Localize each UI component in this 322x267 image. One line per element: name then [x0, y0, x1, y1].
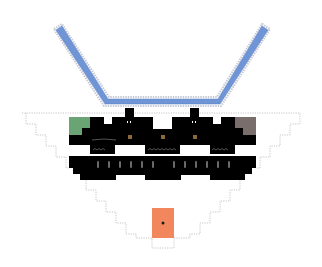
diagram-canvas — [0, 0, 322, 267]
orange-block-dot — [162, 222, 165, 225]
orange-block — [152, 208, 174, 238]
v-channel — [54, 24, 270, 106]
